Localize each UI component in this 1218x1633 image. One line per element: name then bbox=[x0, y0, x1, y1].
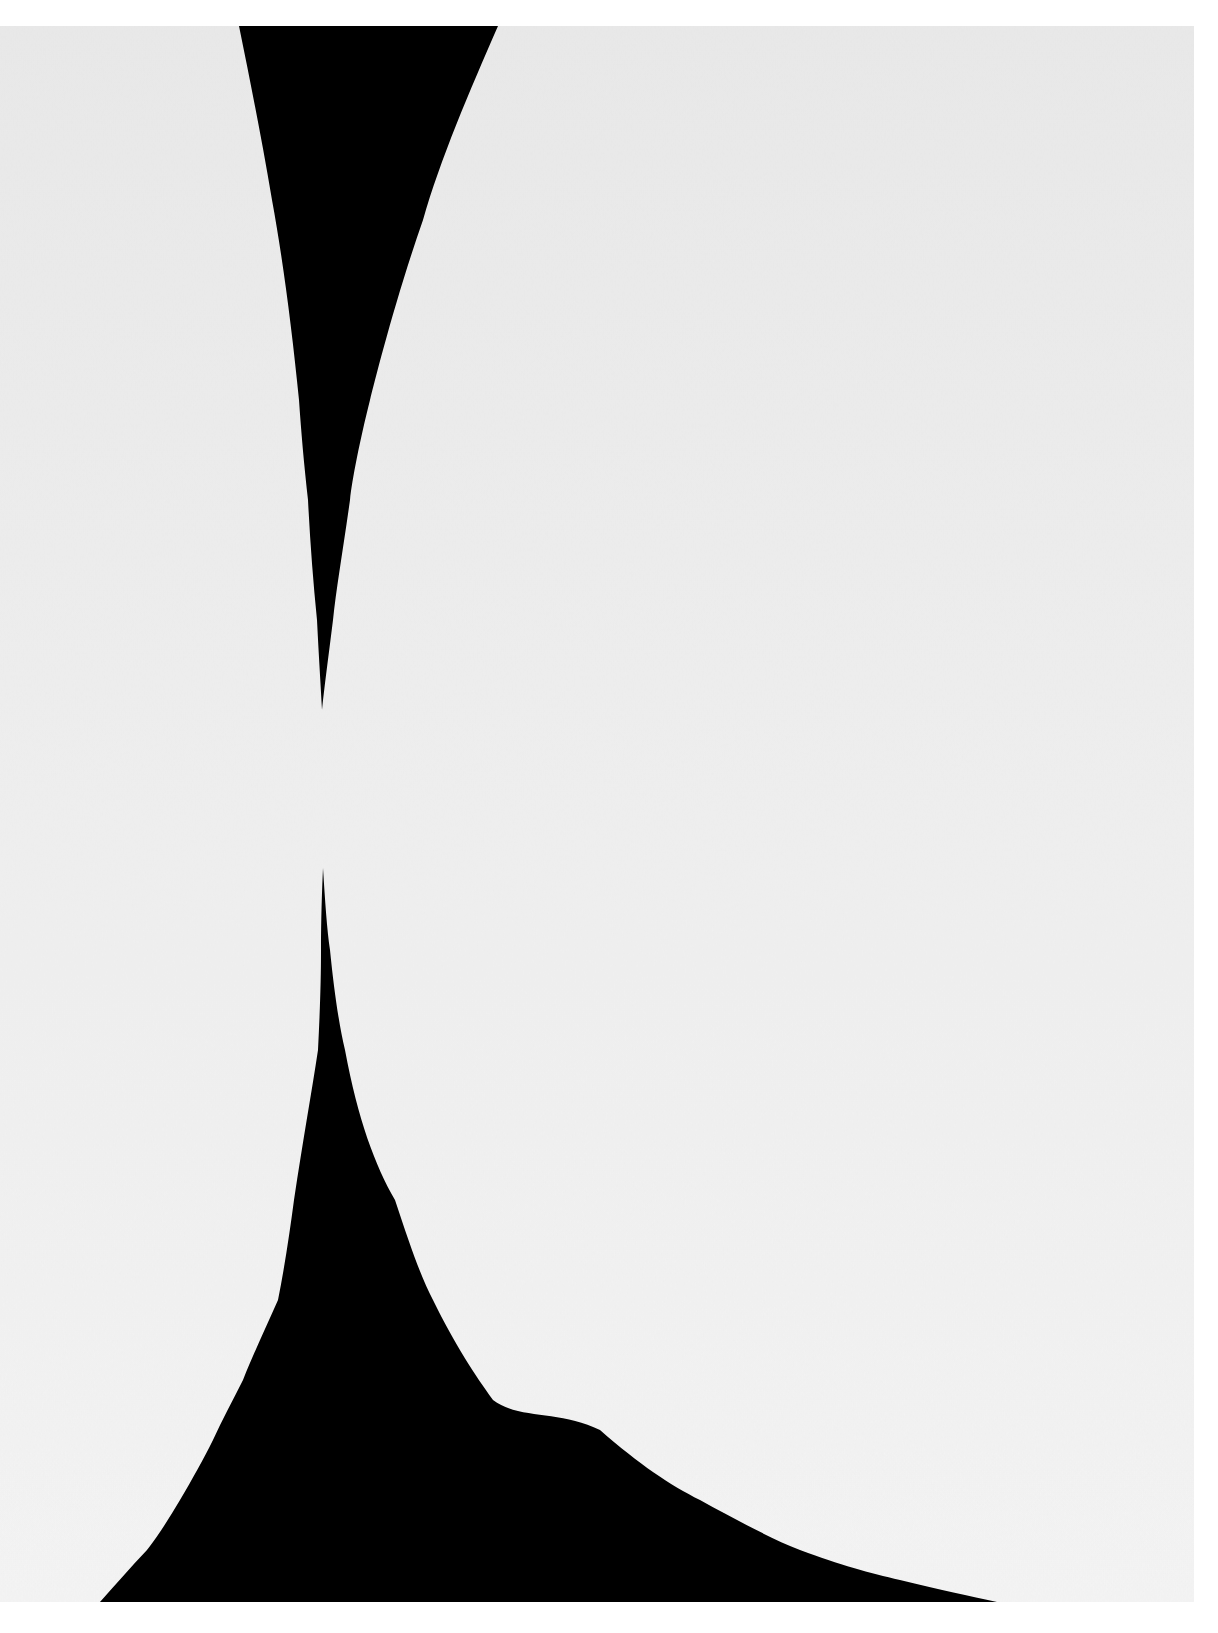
canvas-background bbox=[0, 26, 1194, 1602]
abstract-artwork bbox=[0, 0, 1218, 1633]
artwork-page bbox=[0, 0, 1218, 1633]
